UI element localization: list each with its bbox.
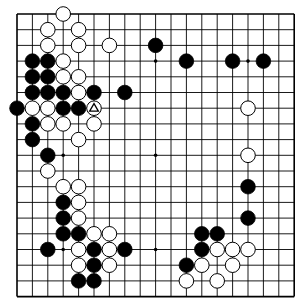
white-stone bbox=[225, 242, 240, 257]
white-stone-icon bbox=[71, 38, 86, 53]
black-stone-icon bbox=[41, 148, 56, 163]
go-board[interactable] bbox=[0, 0, 299, 305]
black-stone bbox=[41, 242, 56, 257]
go-board-canvas[interactable] bbox=[0, 0, 299, 305]
black-stone-icon bbox=[241, 179, 256, 194]
black-stone bbox=[41, 70, 56, 85]
black-stone bbox=[25, 54, 40, 69]
black-stone bbox=[225, 54, 240, 69]
black-stone-icon bbox=[87, 274, 102, 289]
white-stone bbox=[225, 258, 240, 273]
white-stone-icon bbox=[179, 274, 194, 289]
white-stone-icon bbox=[41, 38, 56, 53]
white-stone-icon bbox=[102, 38, 117, 53]
black-stone-icon bbox=[25, 85, 40, 100]
black-stone bbox=[25, 132, 40, 147]
white-stone-icon bbox=[241, 148, 256, 163]
black-stone-icon bbox=[56, 101, 71, 116]
white-stone bbox=[41, 22, 56, 37]
white-stone bbox=[71, 22, 86, 37]
white-stone-icon bbox=[71, 132, 86, 147]
black-stone bbox=[87, 242, 102, 257]
black-stone-icon bbox=[41, 242, 56, 257]
white-stone bbox=[41, 164, 56, 179]
black-stone bbox=[56, 85, 71, 100]
black-stone bbox=[71, 101, 86, 116]
white-stone bbox=[71, 85, 86, 100]
white-stone bbox=[56, 179, 71, 194]
black-stone-icon bbox=[56, 85, 71, 100]
white-stone bbox=[241, 101, 256, 116]
black-stone-icon bbox=[256, 54, 271, 69]
white-stone bbox=[71, 258, 86, 273]
black-stone bbox=[41, 85, 56, 100]
white-stone-icon bbox=[56, 117, 71, 132]
white-stone bbox=[71, 70, 86, 85]
star-point-icon bbox=[154, 154, 158, 158]
black-stone-icon bbox=[118, 242, 133, 257]
white-stone bbox=[41, 117, 56, 132]
white-stone-icon bbox=[41, 117, 56, 132]
black-stone-icon bbox=[87, 242, 102, 257]
white-stone bbox=[56, 117, 71, 132]
white-stone bbox=[87, 117, 102, 132]
white-stone-icon bbox=[56, 179, 71, 194]
black-stone-icon bbox=[56, 211, 71, 226]
white-stone bbox=[241, 148, 256, 163]
white-stone-icon bbox=[71, 85, 86, 100]
white-stone-icon bbox=[71, 22, 86, 37]
white-stone-icon bbox=[25, 101, 40, 116]
black-stone-icon bbox=[10, 101, 25, 116]
white-stone bbox=[210, 274, 225, 289]
white-stone bbox=[102, 258, 117, 273]
white-stone-icon bbox=[102, 242, 117, 257]
white-stone-icon bbox=[195, 258, 210, 273]
star-point-icon bbox=[61, 154, 65, 158]
white-stone bbox=[71, 195, 86, 210]
white-stone-icon bbox=[41, 101, 56, 116]
black-stone-icon bbox=[225, 54, 240, 69]
black-stone bbox=[195, 227, 210, 242]
black-stone bbox=[56, 211, 71, 226]
black-stone bbox=[118, 85, 133, 100]
black-stone-icon bbox=[195, 227, 210, 242]
white-stone bbox=[41, 38, 56, 53]
white-stone bbox=[71, 132, 86, 147]
black-stone-icon bbox=[41, 54, 56, 69]
black-stone bbox=[56, 101, 71, 116]
white-stone-icon bbox=[102, 258, 117, 273]
black-stone bbox=[10, 101, 25, 116]
white-stone-icon bbox=[71, 70, 86, 85]
black-stone-icon bbox=[56, 195, 71, 210]
white-stone-icon bbox=[87, 117, 102, 132]
black-stone-icon bbox=[25, 70, 40, 85]
black-stone-icon bbox=[148, 38, 163, 53]
white-stone-icon bbox=[56, 7, 71, 22]
black-stone-icon bbox=[71, 101, 86, 116]
black-stone-icon bbox=[179, 54, 194, 69]
white-stone-icon bbox=[102, 227, 117, 242]
white-stone-icon bbox=[210, 242, 225, 257]
white-stone bbox=[71, 242, 86, 257]
star-point-icon bbox=[61, 248, 65, 252]
white-stone bbox=[102, 38, 117, 53]
black-stone bbox=[87, 274, 102, 289]
black-stone bbox=[148, 38, 163, 53]
white-stone-icon bbox=[87, 227, 102, 242]
black-stone bbox=[41, 148, 56, 163]
white-stone bbox=[56, 54, 71, 69]
star-point-icon bbox=[246, 59, 250, 63]
star-point-icon bbox=[154, 59, 158, 63]
white-stone bbox=[25, 101, 40, 116]
black-stone-icon bbox=[241, 211, 256, 226]
white-stone-icon bbox=[71, 242, 86, 257]
black-stone bbox=[118, 242, 133, 257]
black-stone bbox=[179, 54, 194, 69]
white-stone-icon bbox=[71, 211, 86, 226]
star-point-icon bbox=[154, 248, 158, 252]
white-stone-icon bbox=[56, 70, 71, 85]
white-stone bbox=[210, 242, 225, 257]
black-stone-icon bbox=[25, 132, 40, 147]
white-stone bbox=[56, 70, 71, 85]
black-stone bbox=[25, 117, 40, 132]
